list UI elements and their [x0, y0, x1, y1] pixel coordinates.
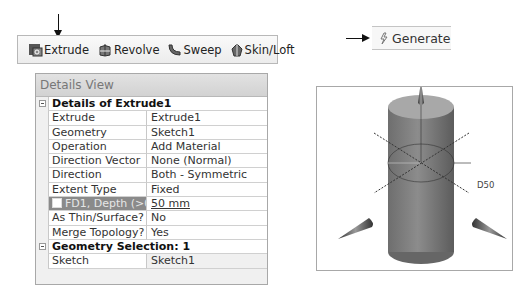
property-value[interactable]: None (Normal) [146, 154, 267, 168]
property-key: Merge Topology? [48, 226, 146, 240]
revolve-icon [97, 43, 113, 57]
property-key: Sketch [48, 254, 146, 268]
generate-icon [378, 32, 389, 45]
property-row[interactable]: As Thin/Surface?No [36, 211, 267, 225]
sweep-label: Sweep [183, 43, 221, 57]
extrude-label: Extrude [44, 43, 89, 57]
revolve-label: Revolve [114, 43, 159, 57]
property-row[interactable]: GeometrySketch1 [36, 126, 267, 140]
revolve-button[interactable]: Revolve [97, 43, 159, 57]
property-key: Direction Vector [48, 154, 146, 168]
property-row[interactable]: Direction VectorNone (Normal) [36, 154, 267, 168]
extruded-cylinder-model [317, 87, 512, 270]
property-value[interactable]: Add Material [146, 140, 267, 154]
property-value[interactable]: Sketch1 [146, 126, 267, 140]
annotation-arrow-down [58, 14, 59, 36]
property-value[interactable]: Both - Symmetric [146, 168, 267, 182]
sweep-icon [167, 43, 182, 57]
property-row[interactable]: SketchSketch1 [36, 254, 267, 268]
collapse-icon[interactable] [39, 100, 46, 107]
property-key: As Thin/Surface? [48, 211, 146, 225]
property-row[interactable]: OperationAdd Material [36, 140, 267, 154]
sweep-button[interactable]: Sweep [167, 43, 221, 57]
property-row[interactable]: ExtrudeExtrude1 [36, 111, 267, 125]
extrude-icon [28, 43, 43, 57]
generate-button[interactable]: Generate [372, 26, 451, 50]
skin-loft-label: Skin/Loft [245, 43, 295, 57]
property-row[interactable]: Merge Topology?Yes [36, 226, 267, 240]
property-key: Operation [48, 140, 146, 154]
property-key: FD1, Depth (>0) [48, 197, 146, 211]
property-key: Direction [48, 168, 146, 182]
property-value[interactable]: Fixed [146, 183, 267, 197]
collapse-icon[interactable] [39, 243, 46, 250]
depth-value-input[interactable]: 50 mm [146, 197, 267, 211]
property-key: Extent Type [48, 183, 146, 197]
property-value[interactable]: No [146, 211, 267, 225]
property-value[interactable]: Yes [146, 226, 267, 240]
annotation-arrow-right [346, 38, 366, 39]
parameter-checkbox[interactable] [52, 198, 62, 208]
skin-loft-button[interactable]: Skin/Loft [230, 43, 295, 57]
skin-loft-icon [230, 43, 244, 57]
property-row[interactable]: Extent TypeFixed [36, 183, 267, 197]
dimension-label[interactable]: D50 [477, 180, 494, 190]
section-geometry-selection[interactable]: Geometry Selection: 1 [36, 240, 267, 254]
property-key: Geometry [48, 126, 146, 140]
extrude-button[interactable]: Extrude [28, 43, 89, 57]
details-view-panel: Details View Details of Extrude1 Extrude… [35, 73, 268, 285]
property-key: Extrude [48, 111, 146, 125]
details-view-title: Details View [36, 74, 267, 97]
property-row-depth[interactable]: FD1, Depth (>0)50 mm [36, 197, 267, 211]
section-details-of-extrude[interactable]: Details of Extrude1 [36, 97, 267, 111]
graphics-viewport[interactable]: D50 [316, 86, 513, 271]
details-grid: Details of Extrude1 ExtrudeExtrude1 Geom… [36, 97, 267, 269]
generate-label: Generate [392, 31, 450, 46]
feature-toolbar: Extrude Revolve Sweep Skin/Loft [17, 35, 278, 64]
property-value[interactable]: Extrude1 [146, 111, 267, 125]
property-row[interactable]: DirectionBoth - Symmetric [36, 168, 267, 182]
property-value[interactable]: Sketch1 [146, 254, 267, 268]
